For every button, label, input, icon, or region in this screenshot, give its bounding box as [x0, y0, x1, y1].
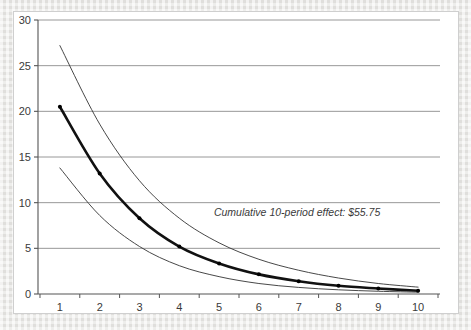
x-tick-label-2: 2 [97, 301, 103, 313]
data-point-period-effect-8 [337, 284, 341, 288]
series-line-upper-band [60, 46, 418, 288]
series-line-period-effect [60, 107, 418, 291]
x-tick-label-1: 1 [57, 301, 63, 313]
y-tick-labels: 051015202530 [19, 14, 38, 300]
data-point-period-effect-4 [177, 245, 181, 249]
y-tick-label-0: 0 [25, 288, 31, 300]
chart-canvas: 051015202530 12345678910 Cumulative 10-p… [0, 0, 471, 330]
data-point-period-effect-3 [138, 216, 142, 220]
x-tick-label-4: 4 [176, 301, 182, 313]
x-tick-label-9: 9 [375, 301, 381, 313]
y-tick-label-15: 15 [19, 151, 31, 163]
data-point-period-effect-2 [98, 171, 102, 175]
chart-figure: 051015202530 12345678910 Cumulative 10-p… [0, 0, 471, 330]
data-point-period-effect-5 [217, 261, 221, 265]
y-tick-label-5: 5 [25, 242, 31, 254]
y-tick-label-30: 30 [19, 14, 31, 26]
data-point-period-effect-1 [58, 105, 62, 109]
data-point-period-effect-10 [416, 289, 420, 293]
data-point-period-effect-6 [257, 272, 261, 276]
x-tick-label-6: 6 [256, 301, 262, 313]
series-line-lower-band [60, 168, 418, 292]
x-tick-label-8: 8 [335, 301, 341, 313]
y-tick-label-25: 25 [19, 60, 31, 72]
data-point-period-effect-9 [376, 287, 380, 291]
y-tick-label-20: 20 [19, 105, 31, 117]
y-tick-label-10: 10 [19, 197, 31, 209]
x-tick-label-10: 10 [412, 301, 424, 313]
series-lines [60, 46, 418, 293]
x-tick-labels: 12345678910 [40, 294, 438, 313]
cumulative-effect-annotation: Cumulative 10-period effect: $55.75 [214, 206, 381, 218]
data-point-markers [58, 105, 420, 293]
x-tick-label-7: 7 [296, 301, 302, 313]
x-tick-label-5: 5 [216, 301, 222, 313]
data-point-period-effect-7 [297, 279, 301, 283]
x-tick-label-3: 3 [136, 301, 142, 313]
